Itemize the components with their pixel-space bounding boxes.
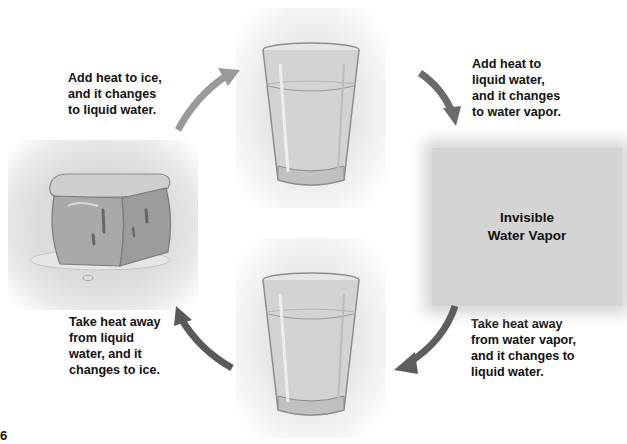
cycle-arrows <box>0 0 627 444</box>
arrow-liquid-to-ice-icon <box>174 306 232 368</box>
arrow-vapor-to-liquid-icon <box>394 306 455 374</box>
page-number: 6 <box>0 428 7 443</box>
arrow-ice-to-liquid-icon <box>178 68 240 130</box>
arrow-liquid-to-vapor-icon <box>420 73 461 126</box>
